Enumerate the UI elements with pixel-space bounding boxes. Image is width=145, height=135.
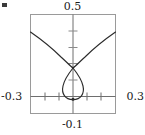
- plot-canvas: [0, 0, 145, 135]
- curve-branch-right: [73, 32, 116, 68]
- y-max-tick-label: 0.5: [0, 1, 145, 12]
- x-max-tick-label: 0.3: [127, 91, 145, 102]
- origin-dot-marker: [72, 98, 75, 101]
- chart-figure: 0.5 -0.1 -0.3 0.3: [0, 0, 145, 135]
- x-min-tick-label: -0.3: [1, 91, 22, 102]
- curve-branch-left: [31, 32, 74, 68]
- y-min-tick-label: -0.1: [0, 119, 145, 130]
